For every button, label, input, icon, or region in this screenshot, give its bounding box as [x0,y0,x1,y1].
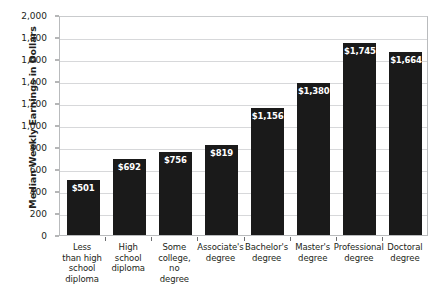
x-axis-tick-mark [244,237,245,241]
y-axis-tick-labels: 2,0001,8001,6001,4001,2001,0008006004002… [0,0,54,292]
bar-value-label: $501 [67,183,100,193]
y-axis-tick-label: 1,000 [1,122,47,131]
x-axis-tick-mark [382,237,383,241]
x-axis-label-line: degree [145,274,203,285]
plot-area: $501$692$756$819$1,156$1,380$1,745$1,664 [59,16,428,236]
bar: $1,156 [251,108,284,235]
bars-layer: $501$692$756$819$1,156$1,380$1,745$1,664 [60,17,427,235]
y-axis-tick-label: 1,200 [1,100,47,109]
x-axis-tick-mark [290,237,291,241]
x-axis-label-line: degree [376,253,434,264]
bar: $1,664 [389,52,422,235]
bar: $756 [159,152,192,235]
bar: $1,745 [343,43,376,235]
bar-value-label: $1,156 [251,111,284,121]
x-axis-tick-mark [151,237,152,241]
x-axis-label-line: diploma [53,274,111,285]
x-axis-tick-mark [336,237,337,241]
y-axis-tick-label: 600 [1,166,47,175]
bar-value-label: $756 [159,155,192,165]
bar-chart: Median Weekly Earnings in Dollars 2,0001… [0,0,445,292]
x-axis-category-labels: Lessthan highschooldiplomaHighschooldipl… [59,242,428,292]
bar: $501 [67,180,100,235]
bar-value-label: $692 [113,162,146,172]
x-axis-tick-mark [197,237,198,241]
bar: $692 [113,159,146,235]
bar: $1,380 [297,83,330,235]
x-axis-label-line: no [145,263,203,274]
x-axis-category-label: Doctoraldegree [376,242,434,263]
bar-value-label: $1,664 [389,55,422,65]
bar: $819 [205,145,238,235]
bar-value-label: $819 [205,148,238,158]
y-axis-tick-label: 1,800 [1,34,47,43]
y-axis-tick-label: 800 [1,144,47,153]
x-axis-label-line: Doctoral [376,242,434,253]
y-axis-tick-label: 400 [1,188,47,197]
y-axis-tick-label: 0 [1,232,47,241]
y-axis-tick-label: 200 [1,210,47,219]
y-axis-tick-label: 2,000 [1,12,47,21]
bar-value-label: $1,380 [297,86,330,96]
x-axis-tick-mark [105,237,106,241]
y-axis-tick-label: 1,400 [1,78,47,87]
bar-value-label: $1,745 [343,46,376,56]
y-axis-tick-label: 1,600 [1,56,47,65]
